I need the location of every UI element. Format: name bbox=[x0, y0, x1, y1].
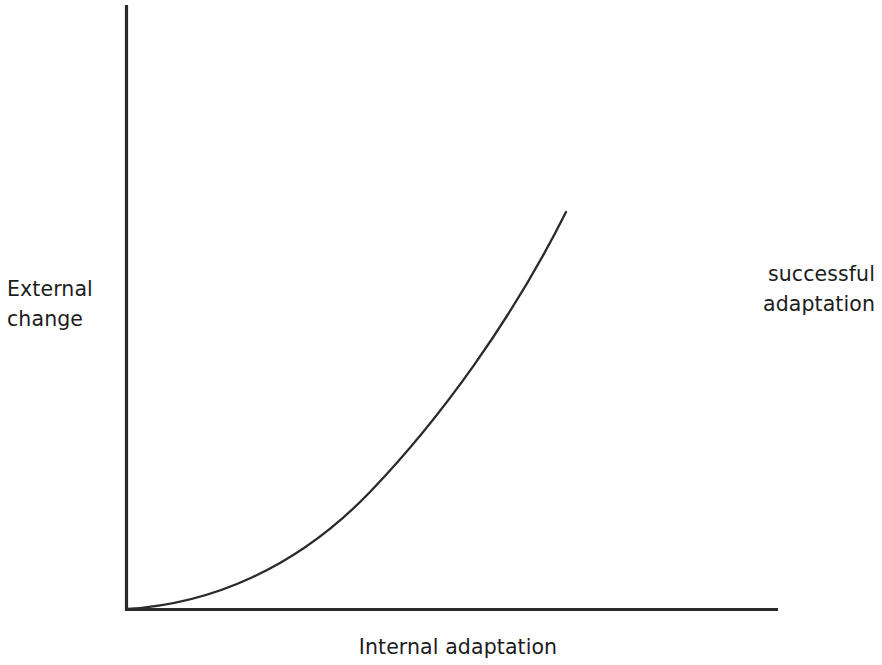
figure-root: External change successful adaptation In… bbox=[0, 0, 882, 665]
annotation-successful-adaptation: successful adaptation bbox=[700, 259, 881, 319]
x-axis-label: Internal adaptation bbox=[248, 633, 668, 661]
y-axis-label: External change bbox=[7, 274, 147, 334]
adaptation-curve bbox=[127, 212, 566, 609]
